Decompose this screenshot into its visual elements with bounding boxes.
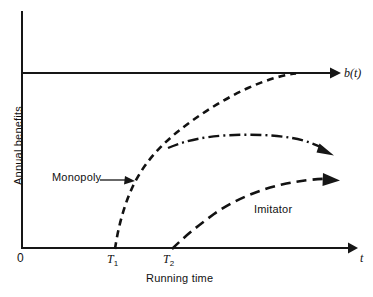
benefit-line-arrowhead [330, 68, 341, 79]
monopoly-leader-arrowhead [124, 176, 135, 185]
x-tick-label-t1-subscript: 1 [114, 259, 118, 268]
dashdot-curve-arrowhead [317, 144, 335, 156]
x-axis-label: Running time [146, 273, 213, 284]
x-tick-label-t2: T2 [163, 253, 174, 268]
x-tick-label-t1: T1 [107, 253, 118, 268]
series-imitator-curve [172, 179, 330, 250]
chart-plot-area [0, 0, 373, 297]
x-axis-variable-label: t [360, 252, 363, 264]
benefit-function-label: b(t) [344, 67, 361, 79]
series-monopoly-after-imitation-curve [168, 135, 326, 150]
x-tick-label-t2-subscript: 2 [170, 259, 174, 268]
imitator-annotation-label: Imitator [254, 204, 292, 215]
y-axis-label: Annual benefits [13, 96, 24, 196]
series-monopoly-curve [115, 74, 296, 250]
imitator-curve-arrowhead [323, 173, 341, 186]
x-tick-label-t2-base: T [163, 252, 170, 266]
monopoly-annotation-label: Monopoly [52, 172, 101, 183]
x-tick-label-t1-base: T [107, 252, 114, 266]
x-axis-arrowhead [348, 243, 358, 254]
x-tick-label-origin: 0 [17, 252, 24, 264]
chart-figure: Annual benefits Running time 0 T1 T2 t b… [0, 0, 373, 297]
